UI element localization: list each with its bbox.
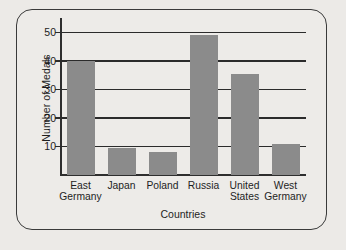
x-axis-tick-label-line: West bbox=[250, 180, 322, 191]
bar bbox=[231, 74, 259, 175]
x-axis-title: Countries bbox=[60, 208, 306, 220]
x-axis-tick-label: WestGermany bbox=[250, 180, 322, 203]
bar bbox=[149, 152, 177, 175]
bar bbox=[190, 35, 218, 175]
chart-page: 1020304050 Number of Medals EastGermanyJ… bbox=[0, 0, 346, 250]
y-axis-title: Number of Medals bbox=[40, 38, 52, 158]
x-axis-tick-label-line: Germany bbox=[45, 191, 117, 202]
bar bbox=[108, 148, 136, 175]
y-axis-tick-label: 50 bbox=[30, 27, 56, 37]
y-axis-title-wrapper: Number of Medals bbox=[24, 42, 38, 162]
bar bbox=[67, 61, 95, 175]
bar-series bbox=[60, 18, 306, 175]
bar bbox=[272, 144, 300, 175]
x-axis-tick-label-line: Germany bbox=[250, 191, 322, 202]
